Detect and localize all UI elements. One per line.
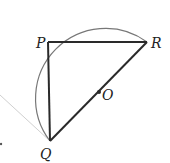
- center-point-o: [97, 90, 101, 94]
- semicircle-arc: [36, 28, 147, 141]
- label-o: O: [102, 87, 114, 103]
- diagram-canvas: P R Q O: [0, 0, 170, 163]
- faint-construction-line: [0, 95, 50, 141]
- label-r: R: [150, 35, 162, 51]
- stray-dot: [0, 143, 2, 145]
- label-q: Q: [40, 146, 52, 162]
- label-p: P: [35, 35, 46, 51]
